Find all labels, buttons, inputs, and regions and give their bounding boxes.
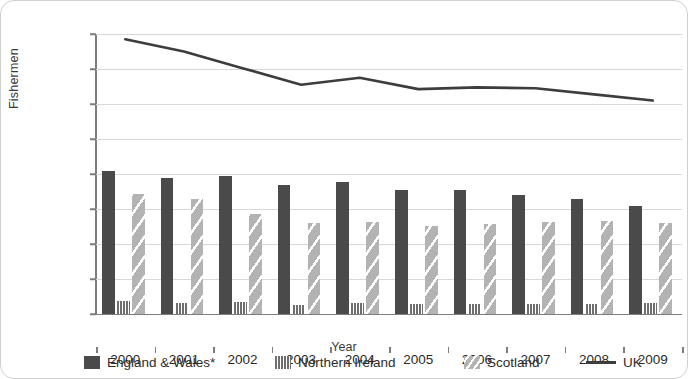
- bar-group: [389, 34, 448, 314]
- bar-scotland: [542, 222, 555, 314]
- legend-item-uk[interactable]: UK: [586, 355, 642, 370]
- bar-scotland: [659, 223, 672, 314]
- legend-item-scotland[interactable]: Scotland: [464, 355, 540, 370]
- bar-northern-ireland: [586, 304, 599, 314]
- chart-legend: England & Wales*Northern IrelandScotland…: [1, 355, 687, 377]
- legend-item-northern-ireland[interactable]: Northern Ireland: [275, 355, 396, 370]
- bar-northern-ireland: [351, 303, 364, 314]
- bar-scotland: [601, 221, 614, 314]
- bar-england-wales: [102, 171, 115, 314]
- bar-group: [213, 34, 272, 314]
- legend-swatch-icon: [464, 356, 480, 369]
- legend-swatch-icon: [84, 356, 100, 369]
- bar-northern-ireland: [176, 303, 189, 314]
- bar-england-wales: [395, 190, 408, 314]
- legend-swatch-icon: [275, 356, 291, 369]
- bar-england-wales: [454, 190, 467, 314]
- plot-area: 02,0004,0006,0008,00010,00012,00014,0001…: [96, 34, 682, 314]
- legend-label: UK: [623, 355, 642, 370]
- bar-scotland: [249, 214, 262, 314]
- bar-england-wales: [161, 178, 174, 315]
- bar-group: [272, 34, 331, 314]
- bar-northern-ireland: [527, 304, 540, 315]
- bar-group: [623, 34, 682, 314]
- y-axis-title: Fishermen: [7, 0, 21, 109]
- bar-group: [565, 34, 624, 314]
- bar-group: [448, 34, 507, 314]
- bar-scotland: [132, 194, 145, 314]
- legend-swatch-icon: [586, 361, 616, 364]
- bar-group: [96, 34, 155, 314]
- legend-label: Scotland: [487, 355, 540, 370]
- bar-england-wales: [336, 182, 349, 314]
- bar-northern-ireland: [117, 301, 130, 314]
- bar-england-wales: [512, 195, 525, 314]
- x-axis-title: Year: [1, 340, 687, 354]
- chart-page: Fishermen 02,0004,0006,0008,00010,00012,…: [0, 0, 688, 379]
- bar-group: [155, 34, 214, 314]
- bar-northern-ireland: [410, 304, 423, 314]
- bar-england-wales: [571, 199, 584, 314]
- bar-group: [506, 34, 565, 314]
- legend-label: Northern Ireland: [298, 355, 396, 370]
- legend-item-england-wales[interactable]: England & Wales*: [84, 355, 215, 370]
- bar-northern-ireland: [644, 303, 657, 314]
- bar-northern-ireland: [234, 302, 247, 314]
- bar-scotland: [425, 226, 438, 314]
- bar-northern-ireland: [469, 304, 482, 314]
- legend-label: England & Wales*: [107, 355, 215, 370]
- bar-scotland: [484, 224, 497, 314]
- bar-northern-ireland: [293, 305, 306, 314]
- bar-scotland: [366, 222, 379, 314]
- bar-group: [330, 34, 389, 314]
- bar-scotland: [191, 199, 204, 315]
- bar-england-wales: [629, 206, 642, 314]
- bar-scotland: [308, 223, 321, 314]
- bar-england-wales: [278, 185, 291, 314]
- bar-england-wales: [219, 176, 232, 314]
